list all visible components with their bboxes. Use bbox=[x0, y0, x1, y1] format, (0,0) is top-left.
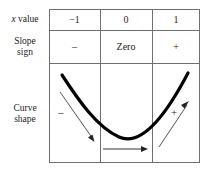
row-divider-1 bbox=[49, 30, 200, 31]
cell-x-value-neg1: −1 bbox=[49, 14, 100, 26]
cell-slope-negative: – bbox=[49, 41, 100, 53]
cell-slope-zero: Zero bbox=[100, 41, 152, 53]
sign-chart-table: −1 0 1 – Zero + bbox=[49, 9, 200, 163]
cell-x-value-zero: 0 bbox=[100, 14, 152, 26]
figure-root: x value Slope sign Curve shape −1 0 1 – … bbox=[0, 0, 208, 174]
curve-label-line-2: shape bbox=[2, 114, 48, 125]
row-label-slope-sign: Slope sign bbox=[2, 36, 48, 58]
x-value-word: value bbox=[16, 14, 39, 24]
curve-label-line-1: Curve bbox=[2, 103, 48, 114]
row-label-curve-shape: Curve shape bbox=[2, 103, 48, 125]
cell-slope-positive: + bbox=[152, 41, 200, 53]
cell-x-value-one: 1 bbox=[152, 14, 200, 26]
slope-label-line-1: Slope bbox=[2, 36, 48, 47]
curve-shape-graphic: – + bbox=[49, 63, 200, 163]
curve-sign-positive: + bbox=[171, 107, 177, 118]
slope-label-line-2: sign bbox=[2, 47, 48, 58]
horizontal-arrow bbox=[103, 146, 148, 152]
table-border-top bbox=[49, 9, 200, 10]
parabola-curve bbox=[62, 73, 188, 139]
curve-sign-negative: – bbox=[58, 107, 64, 118]
parabola-diagram bbox=[49, 63, 200, 163]
row-label-x-value: x value bbox=[2, 14, 48, 25]
